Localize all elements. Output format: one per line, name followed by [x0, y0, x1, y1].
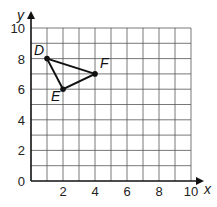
coordinate-plane: x y 246810 0246810 DEF: [0, 0, 217, 207]
point-label-f: F: [100, 55, 110, 71]
y-tick-label: 0: [18, 174, 25, 189]
y-tick-label: 4: [18, 113, 25, 128]
point-label-e: E: [51, 88, 61, 104]
x-tick-label: 4: [91, 184, 98, 199]
point-label-d: D: [34, 42, 44, 58]
y-axis-arrow-icon: [27, 11, 35, 19]
x-tick-label: 10: [184, 184, 198, 199]
x-tick-label: 8: [155, 184, 162, 199]
x-tick-label: 6: [123, 184, 130, 199]
grid: [31, 28, 191, 181]
x-tick-label: 2: [59, 184, 66, 199]
x-tick-labels: 246810: [59, 184, 198, 199]
point-e: [60, 86, 66, 92]
y-tick-label: 2: [18, 143, 25, 158]
x-axis-label: x: [203, 181, 212, 197]
y-tick-labels: 0246810: [11, 21, 25, 189]
point-f: [92, 71, 98, 77]
points: DEF: [34, 42, 110, 105]
y-tick-label: 6: [18, 82, 25, 97]
y-tick-label: 8: [18, 52, 25, 67]
y-tick-label: 10: [11, 21, 25, 36]
point-d: [44, 56, 50, 62]
